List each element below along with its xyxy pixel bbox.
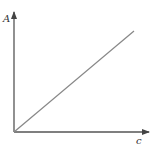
data-line xyxy=(14,31,134,132)
y-axis-label: A xyxy=(2,13,10,24)
line-chart: A c xyxy=(0,0,155,151)
x-axis-label: c xyxy=(136,135,142,146)
